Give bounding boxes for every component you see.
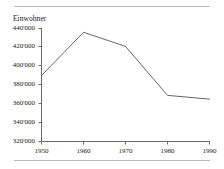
x-tick-label: 1970 (119, 148, 133, 155)
x-tick-label: 1960 (77, 148, 91, 155)
x-axis-tick-labels: 1950 1960 1970 1980 1990 (0, 0, 224, 169)
population-line-chart-figure: Einwohner 320'000 340'000 360'000 380'00 (0, 0, 224, 169)
x-tick-label: 1990 (203, 148, 217, 155)
x-tick-label: 1980 (161, 148, 175, 155)
x-tick-label: 1950 (35, 148, 49, 155)
